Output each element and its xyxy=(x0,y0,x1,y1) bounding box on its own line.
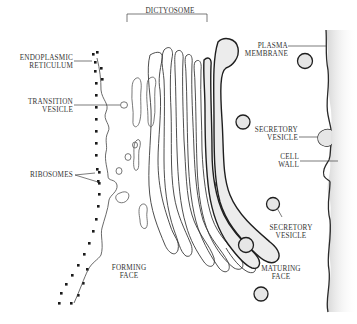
label-secretory-vesicle-free: SECRETORY VESICLE xyxy=(266,224,316,240)
label-secretory-vesicle-membrane: SECRETORY VESICLE xyxy=(250,126,298,142)
golgi-diagram: DICTYOSOME ENDOPLASMIC RETICULUM TRANSIT… xyxy=(0,0,357,324)
label-forming-face: FORMING FACE xyxy=(106,264,152,280)
label-dictyosome: DICTYOSOME xyxy=(140,7,200,15)
label-transition-vesicle: TRANSITION VESICLE xyxy=(10,98,73,114)
label-maturing-face: MATURING FACE xyxy=(256,265,306,281)
label-ribosomes: RIBOSOMES xyxy=(10,171,73,179)
vesicle-maturing-1 xyxy=(239,238,254,253)
cell-wall xyxy=(326,30,357,312)
transition-vesicle xyxy=(121,102,128,108)
vesicle-mid xyxy=(236,115,250,129)
ribosomes-inner xyxy=(70,51,104,305)
label-cell-wall: CELL WALL xyxy=(270,153,299,169)
vesicle-maturing-2 xyxy=(254,287,268,301)
dictyosome-bracket xyxy=(127,14,207,22)
vesicle-near-membrane xyxy=(298,54,313,69)
label-plasma-membrane: PLASMA MEMBRANE xyxy=(244,42,288,58)
label-endoplasmic-reticulum: ENDOPLASMIC RETICULUM xyxy=(10,54,73,70)
